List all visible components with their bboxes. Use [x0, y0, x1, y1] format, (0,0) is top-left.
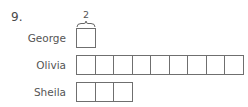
bar-unit-box [206, 55, 226, 75]
row-label-sheila: Sheila [0, 86, 66, 98]
bar-unit-box [169, 55, 189, 75]
bar-unit-box [187, 55, 207, 75]
bar-unit-box [76, 55, 96, 75]
bar-unit-box [132, 55, 152, 75]
bar-george [76, 28, 96, 48]
bar-unit-box [113, 55, 133, 75]
bar-unit-box [76, 28, 96, 48]
bar-unit-box [95, 55, 115, 75]
curly-brace-icon [76, 20, 96, 28]
bar-olivia [76, 55, 244, 75]
row-label-olivia: Olivia [0, 59, 66, 71]
bar-unit-box [224, 55, 244, 75]
question-number: 9. [11, 10, 22, 24]
bar-unit-box [150, 55, 170, 75]
bar-unit-box [113, 82, 133, 102]
bar-unit-box [95, 82, 115, 102]
brace-value: 2 [81, 9, 91, 20]
row-label-george: George [0, 32, 66, 44]
bar-sheila [76, 82, 133, 102]
bar-unit-box [76, 82, 96, 102]
